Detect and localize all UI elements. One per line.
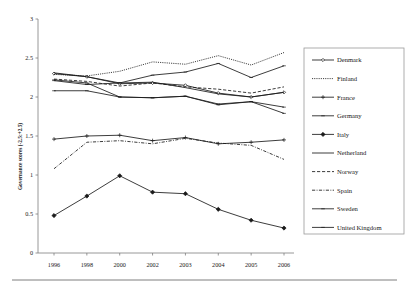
series-line <box>54 63 284 84</box>
y-axis-tick-labels: 00.511.522.53 <box>25 15 33 256</box>
legend-label: United Kingdom <box>337 224 382 231</box>
data-point-marker <box>52 213 56 217</box>
x-tick-label: 1996 <box>48 261 60 268</box>
x-tick-label: 2006 <box>278 261 290 268</box>
x-tick-label: 2000 <box>114 261 126 268</box>
series-france <box>52 133 286 146</box>
series-line <box>54 91 284 114</box>
data-point-marker <box>150 190 154 194</box>
legend-label: France <box>337 94 355 101</box>
legend-label: Italy <box>337 131 350 138</box>
data-point-marker <box>216 207 220 211</box>
legend-label: Spain <box>337 187 353 194</box>
series-italy <box>52 174 286 230</box>
data-point-marker <box>282 226 286 230</box>
y-tick-label: 2.5 <box>25 54 33 61</box>
legend-label: Netherland <box>337 149 367 156</box>
y-tick-label: 3 <box>30 15 33 22</box>
x-tick-label: 2003 <box>179 261 191 268</box>
data-point-marker <box>183 192 187 196</box>
data-point-marker <box>85 194 89 198</box>
legend-label: Germany <box>337 112 362 119</box>
series-line <box>54 53 284 76</box>
y-tick-label: 1.5 <box>25 132 33 139</box>
x-tick-label: 2004 <box>212 261 224 268</box>
x-tick-label: 2002 <box>146 261 158 268</box>
y-tick-label: 1 <box>30 171 33 178</box>
x-tick-label: 2005 <box>245 261 257 268</box>
legend-label: Denmark <box>337 56 362 63</box>
legend-label: Sweden <box>337 205 359 212</box>
y-tick-label: 0.5 <box>25 210 33 217</box>
series-finland <box>54 53 284 76</box>
governance-scores-line-chart: 00.511.522.53 19961998200020022003200420… <box>0 0 409 288</box>
x-tick-label: 1998 <box>81 261 93 268</box>
y-tick-label: 2 <box>30 93 33 100</box>
data-point-marker <box>118 174 122 178</box>
chart-page: 00.511.522.53 19961998200020022003200420… <box>0 0 409 288</box>
legend-label: Norway <box>337 168 359 175</box>
data-series <box>52 53 286 231</box>
data-point-marker <box>249 218 253 222</box>
legend-label: Finland <box>337 75 358 82</box>
y-tick-label: 0 <box>30 249 33 256</box>
x-axis-tick-labels: 19961998200020022003200420052006 <box>48 261 290 268</box>
y-axis-title: Governance scores (-2.5:+2.5) <box>17 123 24 190</box>
plot-canvas: 00.511.522.53 19961998200020022003200420… <box>0 0 409 288</box>
series-sweden <box>52 63 286 84</box>
series-spain <box>54 138 284 168</box>
series-united-kingdom <box>52 91 286 114</box>
series-line <box>54 138 284 168</box>
